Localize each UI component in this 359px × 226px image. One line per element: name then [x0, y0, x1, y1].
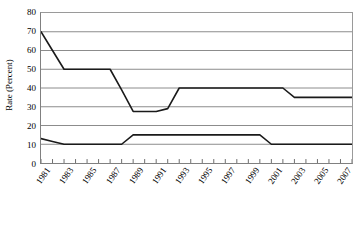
x-tick-label: 1991	[151, 166, 169, 186]
x-tick-label: 1993	[174, 166, 192, 186]
y-tick-label: 50	[18, 65, 36, 74]
plot-area	[40, 12, 353, 164]
x-tick-label: 2005	[313, 166, 331, 186]
y-tick-label: 70	[18, 27, 36, 36]
y-axis-title-label: Rate (Percent)	[4, 59, 14, 111]
y-tick-label: 10	[18, 141, 36, 150]
x-axis-tick-labels: 1981198319851987198919911993199519971999…	[40, 166, 353, 224]
y-tick-label: 20	[18, 122, 36, 131]
y-tick-label: 40	[18, 84, 36, 93]
x-tick-label: 1995	[197, 166, 215, 186]
x-tick-label: 2003	[290, 166, 308, 186]
y-axis-title: Rate (Percent)	[0, 0, 18, 170]
x-tick-label: 1981	[35, 166, 53, 186]
series-lines	[41, 13, 352, 163]
upper-rate-series	[41, 32, 352, 112]
x-tick-label: 1983	[58, 166, 76, 186]
y-tick-label: 30	[18, 103, 36, 112]
x-tick-label: 1985	[81, 166, 99, 186]
x-tick-label: 1989	[127, 166, 145, 186]
x-tick-label: 1987	[104, 166, 122, 186]
x-tick-label: 2001	[267, 166, 285, 186]
x-tick-label: 1999	[243, 166, 261, 186]
line-chart: Rate (Percent) 01020304050607080 1981198…	[0, 0, 359, 226]
y-tick-label: 80	[18, 8, 36, 17]
x-tick-label: 2007	[336, 166, 354, 186]
lower-rate-series	[41, 135, 352, 144]
y-tick-label: 60	[18, 46, 36, 55]
x-tick-label: 1997	[220, 166, 238, 186]
y-tick-label: 0	[18, 160, 36, 169]
y-axis-tick-labels: 01020304050607080	[18, 0, 36, 170]
